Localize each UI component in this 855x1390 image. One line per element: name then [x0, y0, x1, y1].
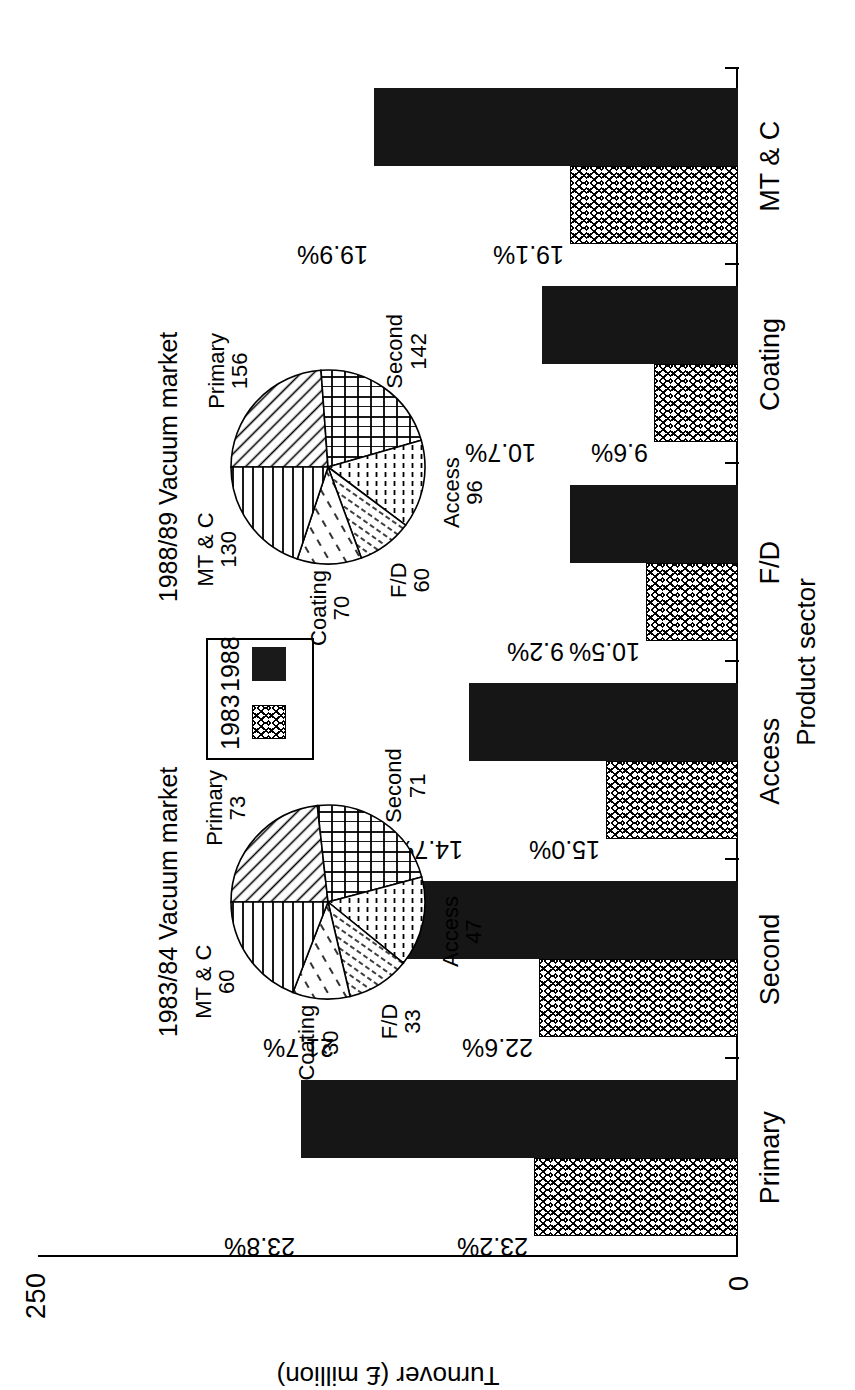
- bar-value-label: 9.6%: [591, 439, 648, 468]
- pie-slice-value: 156: [228, 333, 251, 409]
- bar-1983-primary[interactable]: [534, 1158, 738, 1236]
- pie-slice-name: F/D: [386, 562, 409, 597]
- pie-slice-name: MT & C: [194, 512, 217, 586]
- pie-slice-label: MT & C130: [194, 512, 241, 586]
- pie-chart-1983-84: 1983/84 Vacuum market Primary73Second71A…: [188, 752, 488, 1052]
- pie-slice-label: Second142: [383, 314, 430, 389]
- bar-value-label: 19.9%: [297, 240, 368, 269]
- pie-slice-name: Access: [439, 457, 462, 528]
- legend-entry-1983: 1983: [216, 694, 286, 750]
- bar-1983-access[interactable]: [606, 761, 738, 839]
- legend-label-1983: 1983: [216, 694, 245, 750]
- pie-slice-value: 96: [463, 457, 486, 528]
- pie-slice-value: 33: [401, 1004, 424, 1039]
- pie-slice-value: 71: [405, 748, 428, 823]
- chart-legend: 1983 1988: [206, 638, 314, 760]
- x-axis-tick: [725, 462, 739, 464]
- pie-slice-label: Second71: [382, 748, 429, 823]
- pie-slice-label: Access47: [439, 896, 486, 967]
- x-axis-tick: [725, 858, 739, 860]
- pie-slice-label: MT & C60: [192, 945, 239, 1019]
- pie-slice-value: 130: [217, 512, 240, 586]
- x-axis-category-label: Second: [755, 882, 786, 1038]
- x-axis-category-label: MT & C: [755, 88, 786, 244]
- x-axis-tick: [725, 1057, 739, 1059]
- legend-entry-1988: 1988: [216, 636, 286, 692]
- bar-1983-second[interactable]: [539, 960, 738, 1038]
- pie-slice-name: Primary: [203, 770, 226, 846]
- pie-slice-value: 60: [215, 945, 238, 1019]
- pie-slice-name: Coating: [307, 570, 330, 646]
- bar-group: 23.2%23.8%Primary: [38, 1080, 738, 1236]
- bar-1983-f-d[interactable]: [646, 563, 738, 641]
- x-axis-line: [736, 67, 738, 1257]
- bar-1988-f-d[interactable]: [570, 485, 738, 563]
- bar-chart-plot-area: 250 0 Turnover (£ million) Product secto…: [38, 67, 738, 1257]
- legend-label-1988: 1988: [216, 636, 245, 692]
- bar-value-label: 9.2%: [507, 637, 564, 666]
- bar-group: 19.1%19.9%MT & C: [38, 88, 738, 244]
- bar-value-label: 19.1%: [493, 240, 564, 269]
- pie-slice-label: Coating70: [307, 570, 354, 646]
- pie-slice-value: 47: [462, 896, 485, 967]
- bar-value-label: 15.0%: [530, 835, 601, 864]
- x-axis-category-label: Primary: [755, 1080, 786, 1236]
- pie-graphic-1988-89: Primary156Second142Access96F/D60Coating7…: [228, 367, 428, 567]
- pie-slice-label: Primary73: [203, 770, 250, 846]
- pie-slice-value: 30: [318, 1005, 341, 1081]
- pie-slice-label: Access96: [439, 457, 486, 528]
- pie-slice-name: MT & C: [192, 945, 215, 1019]
- x-axis-tick: [725, 67, 739, 69]
- pie-graphic-1983-84: Primary73Second71Access47F/D33Coating30M…: [228, 802, 428, 1002]
- x-axis-category-label: Access: [755, 683, 786, 839]
- bar-1988-mt-c[interactable]: [374, 88, 738, 166]
- x-axis-category-label: Coating: [755, 287, 786, 443]
- x-axis-category-label: F/D: [755, 485, 786, 641]
- pie-slice-value: 73: [226, 770, 249, 846]
- x-axis-tick: [725, 263, 739, 265]
- pie-slice-label: F/D33: [377, 1004, 424, 1039]
- bar-1988-access[interactable]: [469, 683, 738, 761]
- pie-slice-name: Second: [383, 314, 406, 389]
- pie-chart-1988-89: 1988/89 Vacuum market Primary156Second14…: [188, 317, 488, 617]
- pie-slice-value: 60: [410, 562, 433, 597]
- bar-1983-coating[interactable]: [654, 365, 738, 443]
- pie-title-1988-89: 1988/89 Vacuum market: [154, 332, 183, 603]
- bar-value-label: 23.2%: [457, 1232, 528, 1261]
- pie-slice-name: Primary: [204, 333, 227, 409]
- pie-slice-label: Coating30: [295, 1005, 342, 1081]
- bar-1988-primary[interactable]: [301, 1080, 738, 1158]
- bar-1988-coating[interactable]: [542, 287, 738, 365]
- pie-slice-label: F/D60: [386, 562, 433, 597]
- y-axis-title: Turnover (£ million): [277, 1360, 500, 1390]
- pie-slice-name: Second: [382, 748, 405, 823]
- pie-slice-value: 142: [406, 314, 429, 389]
- x-axis-title: Product sector: [791, 578, 822, 746]
- pie-slice-label: Primary156: [204, 333, 251, 409]
- y-axis-line: [38, 1255, 738, 1257]
- bar-value-label: 10.5%: [569, 637, 640, 666]
- bar-value-label: 23.8%: [224, 1232, 295, 1261]
- y-axis-tick-label-min: 0: [724, 1275, 755, 1291]
- pie-slice-value: 70: [330, 570, 353, 646]
- bar-1983-mt-c[interactable]: [570, 166, 738, 244]
- pie-slice-name: Access: [439, 896, 462, 967]
- legend-swatch-1988: [252, 647, 286, 681]
- pie-slice-name: F/D: [377, 1004, 400, 1039]
- y-axis-tick-label-max: 250: [21, 1272, 52, 1319]
- legend-swatch-1983: [252, 705, 286, 739]
- x-axis-tick: [725, 660, 739, 662]
- pie-title-1983-84: 1983/84 Vacuum market: [154, 767, 183, 1038]
- pie-slice-name: Coating: [295, 1005, 318, 1081]
